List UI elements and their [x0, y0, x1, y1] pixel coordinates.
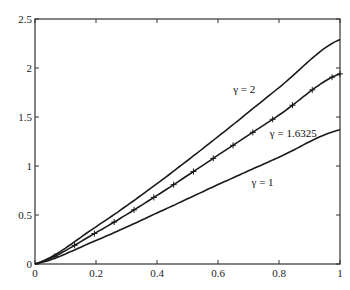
axis-ticks: 00.20.40.60.8100.511.522.5 — [18, 13, 343, 279]
x-tick-label: 0 — [32, 267, 38, 279]
line-chart: 00.20.40.60.8100.511.522.5 γ = 2γ = 1.63… — [0, 0, 350, 290]
x-tick-label: 1 — [337, 267, 343, 279]
y-tick-label: 1.5 — [18, 111, 32, 123]
series-annotation: γ = 2 — [232, 83, 255, 95]
x-tick-label: 0.2 — [89, 267, 103, 279]
y-tick-label: 2.5 — [18, 13, 32, 25]
axes-box — [35, 19, 340, 264]
x-tick-label: 0.6 — [211, 267, 225, 279]
series-lines — [35, 40, 343, 264]
series-line — [35, 40, 340, 264]
x-tick-label: 0.8 — [272, 267, 286, 279]
series-line — [35, 74, 340, 264]
y-tick-label: 1 — [27, 160, 33, 172]
series-line — [35, 130, 340, 264]
series-annotation: γ = 1 — [251, 176, 274, 188]
x-tick-label: 0.4 — [150, 267, 164, 279]
y-tick-label: 0.5 — [18, 209, 32, 221]
y-tick-label: 2 — [27, 62, 33, 74]
y-tick-label: 0 — [27, 258, 33, 270]
series-annotation: γ = 1.6325 — [269, 127, 317, 139]
plot-frame — [35, 19, 340, 264]
